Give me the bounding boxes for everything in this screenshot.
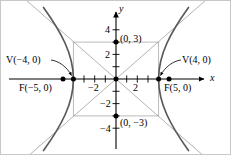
y-axis-label: y — [119, 4, 123, 14]
leader-vertex-right — [161, 60, 182, 76]
x-axis-label: x — [210, 73, 214, 83]
point-vertex-right — [156, 77, 161, 82]
x-tick-label-neg2: −2 — [88, 83, 99, 93]
y-tick-label-neg2: −2 — [100, 99, 111, 109]
point-vertex-left — [71, 77, 76, 82]
label-co-vertex-bottom: (0, −3) — [120, 118, 147, 128]
point-origin — [114, 77, 119, 82]
label-vertex-left: V(−4, 0) — [6, 55, 41, 65]
label-co-vertex-top: (0, 3) — [120, 34, 142, 44]
y-tick-label-4: 4 — [105, 25, 110, 35]
point-focus-left — [61, 77, 66, 82]
label-focus-right: F(5, 0) — [164, 83, 191, 93]
label-vertex-right: V(4, 0) — [182, 55, 211, 65]
point-focus-right — [167, 77, 172, 82]
point-co-vertex-bottom — [114, 113, 119, 118]
plot-canvas — [1, 1, 231, 155]
y-tick-label-neg4: −4 — [100, 124, 111, 134]
y-tick-label-2: 2 — [105, 50, 110, 60]
hyperbola-figure: x y −2 2 4 2 −2 −4 V(−4, 0) F(−5, 0) V(4… — [0, 0, 231, 155]
point-co-vertex-top — [114, 40, 119, 45]
x-tick-label-2: 2 — [133, 83, 138, 93]
label-focus-left: F(−5, 0) — [19, 83, 52, 93]
leader-vertex-left — [51, 60, 72, 76]
